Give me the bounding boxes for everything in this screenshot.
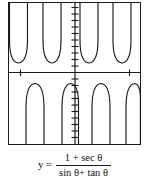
equation-equals-sign: =: [46, 159, 56, 171]
equation-row: y = 1 + sec θ sin θ+ tan θ: [38, 152, 111, 177]
fraction-bar: [56, 165, 111, 166]
equation-lhs: y: [38, 159, 46, 171]
trig-function-graph-figure: y = 1 + sec θ sin θ+ tan θ: [0, 0, 149, 182]
equation-fraction: 1 + sec θ sin θ+ tan θ: [56, 152, 111, 177]
fraction-denominator: sin θ+ tan θ: [56, 167, 111, 178]
graph-plot-area: [0, 0, 149, 148]
fraction-numerator: 1 + sec θ: [62, 152, 105, 163]
equation-caption: y = 1 + sec θ sin θ+ tan θ: [0, 148, 149, 182]
graph-svg: [0, 0, 149, 148]
